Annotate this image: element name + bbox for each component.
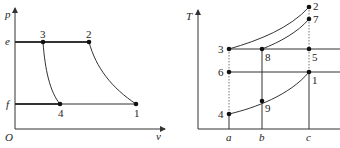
p-axis-label: p	[5, 9, 11, 20]
point-3-label: 3	[40, 29, 46, 40]
tick-a-label: a	[226, 132, 232, 143]
level-f-label: f	[6, 99, 9, 110]
point-4-label: 4	[58, 108, 64, 119]
point-4-label: 4	[218, 109, 224, 120]
curve-3-4	[43, 42, 60, 104]
curve-3-2	[229, 7, 309, 49]
point-6	[227, 70, 232, 75]
point-2	[307, 5, 312, 10]
point-4	[58, 102, 63, 107]
point-7	[307, 17, 312, 22]
point-2	[87, 40, 92, 45]
point-1	[134, 102, 139, 107]
point-3	[41, 40, 46, 45]
thermodynamic-diagrams	[0, 0, 340, 148]
pv-diagram	[15, 8, 165, 129]
point-4	[227, 112, 232, 117]
point-1-label: 1	[134, 108, 140, 119]
v-axis-label: v	[156, 131, 161, 142]
t-axis-label: T	[186, 11, 192, 22]
point-8	[260, 47, 265, 52]
point-2-label: 2	[313, 1, 319, 12]
point-1	[307, 70, 312, 75]
point-9-label: 9	[265, 103, 271, 114]
tick-b-label: b	[259, 132, 265, 143]
tick-c-label: c	[306, 132, 311, 143]
point-3	[227, 47, 232, 52]
level-e-label: e	[5, 36, 10, 47]
point-8-label: 8	[265, 52, 271, 63]
point-5-label: 5	[312, 52, 318, 63]
point-5	[307, 47, 312, 52]
origin-label: O	[5, 132, 13, 143]
point-6-label: 6	[218, 67, 224, 78]
point-1-label: 1	[312, 75, 318, 86]
point-3-label: 3	[218, 44, 224, 55]
curve-2-1	[89, 42, 136, 104]
point-9	[260, 99, 265, 104]
point-2-label: 2	[86, 29, 92, 40]
point-7-label: 7	[313, 14, 319, 25]
